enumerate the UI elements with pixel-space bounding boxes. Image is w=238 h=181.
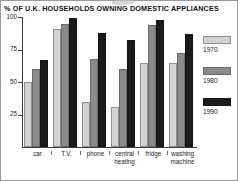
bar-group xyxy=(23,17,52,147)
bar xyxy=(148,25,156,147)
x-axis-label: fridge xyxy=(139,150,168,158)
legend-label: 1980 xyxy=(203,77,235,84)
bar-group xyxy=(52,17,81,147)
x-axis-separator xyxy=(80,151,81,155)
legend-label: 1970 xyxy=(203,46,235,53)
y-axis-tick-mark xyxy=(18,115,22,116)
bar-group xyxy=(139,17,168,147)
y-axis-tick-mark xyxy=(18,82,22,83)
legend-swatch xyxy=(203,67,231,75)
x-axis-label: car xyxy=(23,150,52,158)
legend-item: 1980 xyxy=(203,67,235,89)
bar xyxy=(32,69,40,147)
legend-swatch xyxy=(203,98,231,106)
bar xyxy=(98,33,106,147)
chart-title: % OF U.K. HOUSEHOLDS OWNING DOMESTIC APP… xyxy=(4,4,219,13)
bar xyxy=(169,63,177,148)
x-axis-line xyxy=(22,147,197,148)
legend-swatch xyxy=(203,36,231,44)
x-axis-separator xyxy=(51,151,52,155)
bar xyxy=(69,18,77,147)
bar-group xyxy=(110,17,139,147)
bar xyxy=(24,82,32,147)
x-axis-separator xyxy=(167,151,168,155)
y-axis-tick-label: 50 xyxy=(10,78,17,85)
x-axis-separator xyxy=(138,151,139,155)
legend-item: 1990 xyxy=(203,98,235,120)
legend-label: 1990 xyxy=(203,108,235,115)
y-axis-tick-label: 25 xyxy=(10,110,17,117)
chart-legend: 197019801990 xyxy=(203,36,235,129)
bar xyxy=(185,34,193,147)
x-axis-labels: carT.V.phonecentral heatingfridgewashing… xyxy=(23,150,197,176)
bar xyxy=(82,102,90,148)
x-axis-label: central heating xyxy=(110,150,139,165)
y-axis-tick-mark xyxy=(18,50,22,51)
y-axis-tick-label: 75 xyxy=(10,45,17,52)
x-axis-label: phone xyxy=(81,150,110,158)
bar xyxy=(61,24,69,148)
legend-item: 1970 xyxy=(203,36,235,58)
x-axis-separator xyxy=(109,151,110,155)
y-axis-tick-label: 100 xyxy=(6,13,17,20)
bar xyxy=(111,107,119,147)
bar-plot-area xyxy=(23,17,197,147)
y-axis-tick-mark xyxy=(18,17,22,18)
bar xyxy=(90,59,98,147)
bar xyxy=(119,69,127,147)
x-axis-label: washing machine xyxy=(168,150,197,165)
bar xyxy=(40,60,48,147)
bar-group xyxy=(81,17,110,147)
chart-screenshot: % OF U.K. HOUSEHOLDS OWNING DOMESTIC APP… xyxy=(0,0,238,181)
bar xyxy=(177,53,185,147)
bar xyxy=(53,29,61,147)
bar xyxy=(140,63,148,148)
bar-group xyxy=(168,17,197,147)
x-axis-label: T.V. xyxy=(52,150,81,158)
bar xyxy=(127,40,135,147)
bar xyxy=(156,20,164,147)
